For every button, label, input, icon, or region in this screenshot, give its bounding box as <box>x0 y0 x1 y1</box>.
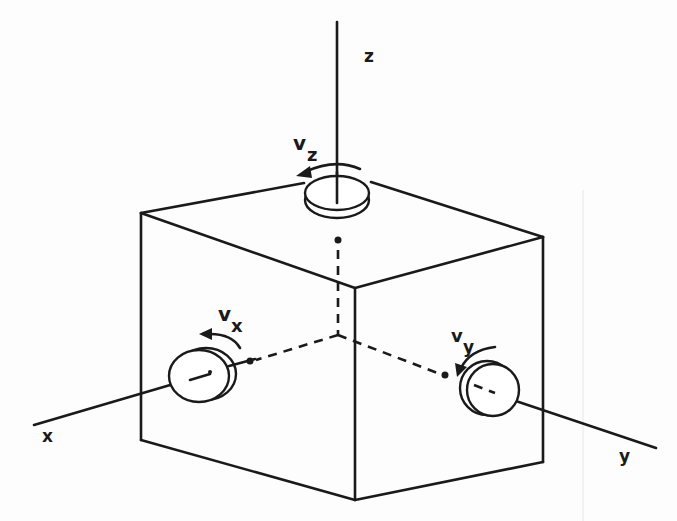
cube <box>141 182 543 500</box>
diagram-canvas: z x y v z v x v y <box>0 0 677 521</box>
y-rotor-disc <box>460 361 519 416</box>
vy-label: v y <box>451 325 474 357</box>
svg-text:z: z <box>307 144 317 165</box>
y-axis-label: y <box>619 446 630 466</box>
cube-diagram: z x y v z v x v y <box>0 0 677 521</box>
x-rotor-disc <box>169 348 255 402</box>
z-rotor-disc <box>305 172 369 218</box>
x-axis-label: x <box>42 426 53 446</box>
svg-text:v: v <box>218 302 231 326</box>
svg-text:y: y <box>463 337 474 357</box>
svg-text:v: v <box>451 325 463 346</box>
svg-text:v: v <box>293 131 306 155</box>
y-axis <box>495 394 656 448</box>
z-axis-label: z <box>364 46 374 66</box>
svg-text:x: x <box>231 315 243 336</box>
vx-label: v x <box>218 302 243 336</box>
hidden-axes <box>247 335 449 379</box>
vz-label: v z <box>293 131 317 165</box>
